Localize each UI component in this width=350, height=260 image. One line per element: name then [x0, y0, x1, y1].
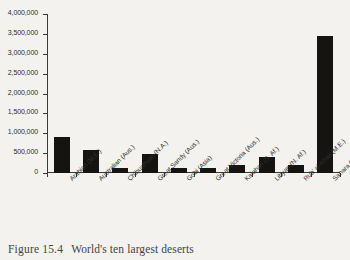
x-axis-label: Australian (Aus.)	[97, 177, 102, 182]
x-axis-labels: Arabian (M.E.)Australian (Aus.)Chihuahua…	[47, 174, 340, 236]
y-axis-tick-label: 1,000,000	[8, 128, 38, 135]
figure-container: 0500,0001,000,0001,500,0002,000,0002,500…	[0, 0, 350, 260]
x-axis-label: Rub' al-Khali (M.E.)	[302, 177, 307, 182]
x-axis-label: Chihuahuan (N.A.)	[126, 177, 131, 182]
y-axis-tick: 4,000,000	[43, 14, 47, 15]
y-axis-tick-label: 2,500,000	[8, 69, 38, 76]
y-axis-tick-label: 500,000	[13, 148, 38, 155]
x-axis-label: Great Sandy (Aus.)	[156, 177, 161, 182]
y-axis-tick: 3,000,000	[43, 54, 47, 55]
y-axis-tick: 2,000,000	[43, 94, 47, 95]
y-axis-tick-label: 0	[34, 168, 38, 175]
y-axis-tick: 1,000,000	[43, 133, 47, 134]
y-axis-tick-label: 3,500,000	[8, 29, 38, 36]
caption-number: 15.4	[42, 243, 63, 255]
x-axis-label: Libyan (N. Af.)	[273, 177, 278, 182]
x-axis-label: Gobi (Asia)	[185, 177, 190, 182]
y-axis-tick: 3,500,000	[43, 34, 47, 35]
caption-text: World's ten largest deserts	[71, 243, 194, 255]
figure-caption: Figure 15.4 World's ten largest deserts	[8, 243, 194, 255]
caption-label: Figure	[8, 243, 39, 255]
bar	[54, 137, 70, 173]
x-axis-label: Arabian (M.E.)	[68, 177, 73, 182]
y-axis-tick-label: 3,000,000	[8, 49, 38, 56]
y-axis-tick: 1,500,000	[43, 113, 47, 114]
y-axis-tick: 2,500,000	[43, 74, 47, 75]
y-axis-tick: 500,000	[43, 153, 47, 154]
x-axis-label: Kalahari (S. Af.)	[243, 177, 248, 182]
x-axis-label: Sahara (N. Af.)	[331, 177, 336, 182]
y-axis-tick-label: 4,000,000	[8, 9, 38, 16]
y-axis-tick-label: 1,500,000	[8, 108, 38, 115]
x-axis-label: Great Victoria (Aus.)	[214, 177, 219, 182]
y-axis-tick-label: 2,000,000	[8, 89, 38, 96]
